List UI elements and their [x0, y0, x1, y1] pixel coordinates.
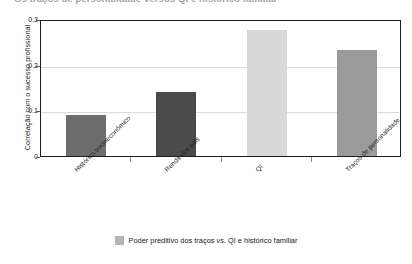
y-tick-label: 0.1 [8, 107, 38, 114]
y-tick-label: 0.3 [8, 16, 38, 23]
y-tick-label: 0.2 [8, 62, 38, 69]
bar-3 [247, 30, 287, 156]
x-tick-mark [311, 157, 312, 162]
legend-label-emphasis: vs. [217, 236, 226, 245]
x-tick-mark [130, 157, 131, 162]
y-tick-label: 0 [8, 153, 38, 160]
chart-legend: Poder preditivo dos traços vs. QI e hist… [0, 236, 412, 245]
legend-label: Poder preditivo dos traços vs. QI e hist… [129, 236, 298, 245]
y-axis-title: Correlação com o sucesso profissional [23, 13, 32, 163]
plot-area [40, 20, 401, 157]
x-tick-mark [221, 157, 222, 162]
y-tick-mark [36, 157, 40, 158]
category-label-3: QI [254, 163, 264, 173]
legend-swatch-icon [115, 236, 124, 245]
bar-chart: Correlação com o sucesso profissional 00… [0, 0, 412, 264]
